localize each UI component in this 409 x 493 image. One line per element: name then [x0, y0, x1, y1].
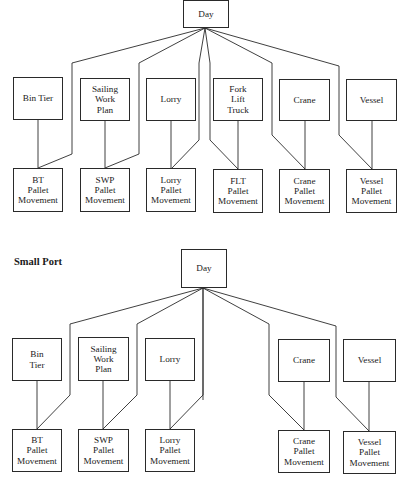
node-label: Bin Tier: [23, 93, 53, 103]
top-node-vessel-pallet-movement: Vessel Pallet Movement: [346, 169, 397, 213]
node-label: Lorry Pallet Movement: [151, 175, 191, 206]
top-node-vessel: Vessel: [346, 79, 397, 121]
small-node-crane-pallet-movement: Crane Pallet Movement: [278, 430, 330, 473]
node-label: Vessel: [360, 95, 383, 105]
node-label: Lorry: [161, 94, 182, 104]
node-label: Day: [196, 263, 211, 273]
node-label: Sailing Work Plan: [90, 344, 116, 375]
node-label: SWP Pallet Movement: [84, 435, 124, 466]
top-root-day-node: Day: [183, 0, 229, 28]
small-port-title: Small Port: [14, 256, 62, 267]
top-node-crane-pallet-movement: Crane Pallet Movement: [279, 169, 330, 213]
node-label: BT Pallet Movement: [17, 435, 57, 466]
node-label: Crane Pallet Movement: [284, 436, 324, 467]
small-node-lorry: Lorry: [145, 338, 195, 381]
node-label: SWP Pallet Movement: [85, 175, 125, 206]
top-node-lorry-pallet-movement: Lorry Pallet Movement: [146, 168, 196, 212]
node-label: Bin Tier: [30, 349, 45, 369]
top-node-fork-lift-truck: Fork Lift Truck: [213, 78, 263, 121]
top-node-crane: Crane: [279, 79, 330, 121]
node-label: Crane: [294, 95, 316, 105]
node-label: Crane: [293, 355, 315, 365]
node-label: BT Pallet Movement: [18, 175, 58, 206]
top-node-flt-pallet-movement: FLT Pallet Movement: [213, 169, 263, 213]
small-node-vessel: Vessel: [343, 339, 396, 382]
clipped-caption-fragment: [16, 486, 216, 493]
node-label: Lorry Pallet Movement: [150, 435, 190, 466]
diagram-canvas: Day Bin Tier Sailing Work Plan Lorry For…: [0, 0, 409, 493]
node-label: FLT Pallet Movement: [218, 176, 258, 207]
node-label: Day: [198, 9, 213, 19]
small-node-crane: Crane: [278, 339, 330, 382]
small-node-sailing-work-plan: Sailing Work Plan: [78, 337, 129, 381]
small-node-lorry-pallet-movement: Lorry Pallet Movement: [145, 429, 195, 472]
node-label: Fork Lift Truck: [227, 84, 249, 115]
node-label: Lorry: [160, 354, 181, 364]
node-label: Crane Pallet Movement: [285, 176, 325, 207]
small-node-bin-tier: Bin Tier: [12, 338, 62, 381]
top-node-bin-tier: Bin Tier: [13, 77, 63, 120]
node-label: Vessel Pallet Movement: [352, 176, 392, 207]
top-node-bt-pallet-movement: BT Pallet Movement: [13, 168, 63, 212]
small-root-day-node: Day: [181, 249, 227, 288]
small-node-swp-pallet-movement: SWP Pallet Movement: [78, 429, 129, 472]
node-label: Vessel Pallet Movement: [350, 437, 390, 468]
top-node-swp-pallet-movement: SWP Pallet Movement: [80, 168, 130, 212]
node-label: Vessel: [358, 355, 381, 365]
connector-lines: [0, 0, 409, 493]
top-node-sailing-work-plan: Sailing Work Plan: [80, 78, 130, 121]
node-label: Sailing Work Plan: [92, 84, 118, 115]
top-node-lorry: Lorry: [146, 78, 196, 121]
small-node-vessel-pallet-movement: Vessel Pallet Movement: [343, 431, 396, 474]
small-node-bt-pallet-movement: BT Pallet Movement: [12, 429, 62, 472]
